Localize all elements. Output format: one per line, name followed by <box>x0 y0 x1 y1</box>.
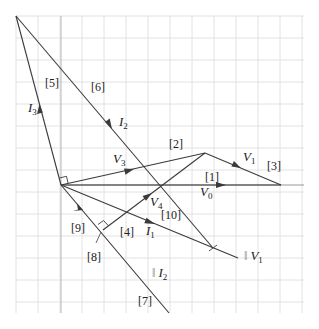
marker-5: [5] <box>45 76 59 90</box>
label-parallel-i2: ‖ I2 <box>152 265 167 282</box>
label-i3: I3 <box>27 100 37 117</box>
arrow-v3-icon <box>124 169 134 175</box>
marker-9: [9] <box>71 221 85 235</box>
marker-10: [10] <box>161 208 181 222</box>
marker-4: [4] <box>120 225 134 239</box>
marker-7: [7] <box>138 294 152 308</box>
label-parallel-v1: ‖ V1 <box>244 248 263 265</box>
marker-6: [6] <box>91 80 105 94</box>
arrow-i2-icon <box>105 118 112 129</box>
label-v1: V1 <box>243 149 255 166</box>
label-v4: V4 <box>150 194 163 211</box>
marker-8: [8] <box>87 250 101 264</box>
marker-1: [1] <box>205 170 219 184</box>
marker-3: [3] <box>267 159 281 173</box>
label-v3: V3 <box>113 151 126 168</box>
label-i1: I1 <box>145 223 155 240</box>
vector-i2 <box>16 16 213 248</box>
marker-2: [2] <box>169 137 183 151</box>
right-angle-8 <box>98 221 109 226</box>
label-v0: V0 <box>200 184 213 201</box>
phasor-diagram: [1] [2] [3] [4] [5] [6] [7] [8] [9] [10]… <box>0 0 319 329</box>
leader-8 <box>96 232 101 243</box>
